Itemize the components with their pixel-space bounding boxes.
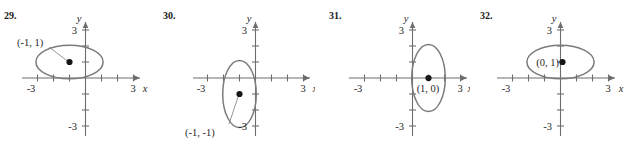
exercise-panel-30: 30.	[155, 0, 315, 142]
x-pos-tick-label-31: 3	[457, 83, 462, 94]
x-axis-31	[349, 75, 467, 81]
y-axis-31	[410, 22, 416, 136]
y-neg-tick-label-32: -3	[543, 121, 552, 132]
y-neg-tick-label-29: -3	[68, 121, 77, 132]
y-neg-tick-label-30: -3	[238, 121, 247, 132]
figure-strip: 29.	[0, 0, 629, 142]
leader-line-29	[49, 47, 68, 62]
x-neg-tick-label-29: -3	[27, 83, 36, 94]
focus-point-31	[425, 75, 431, 81]
point-label-32: (0, 1)	[536, 57, 559, 69]
x-pos-tick-label-29: 3	[130, 83, 135, 94]
y-axis-30	[253, 22, 259, 136]
focus-point-29	[66, 59, 72, 65]
x-axis-30	[193, 75, 310, 81]
y-neg-tick-label-31: -3	[395, 121, 404, 132]
x-pos-tick-label-30: 3	[300, 83, 305, 94]
y-pos-tick-label-30: 3	[242, 25, 247, 36]
y-pos-tick-label-29: 3	[72, 25, 77, 36]
leader-line-30	[229, 96, 239, 125]
y-axis-label-31: y	[403, 13, 409, 24]
x-neg-tick-label-31: -3	[354, 83, 363, 94]
point-label-30: (-1, -1)	[185, 127, 215, 139]
coordinate-plot-30: -3 3 3 -3 x y (-1, -1)	[155, 0, 315, 142]
exercise-panel-32: 32.	[470, 0, 629, 142]
coordinate-plot-32: -3 3 3 -3 x y (0, 1)	[470, 0, 629, 142]
point-label-29: (-1, 1)	[17, 37, 44, 49]
point-label-31: (1, 0)	[417, 83, 440, 95]
x-axis-label-32: x	[618, 83, 624, 94]
coordinate-plot-31: -3 3 3 -3 x y (1, 0)	[315, 0, 470, 142]
coordinate-plot-29: -3 3 3 -3 x y (-1, 1)	[0, 0, 155, 142]
exercise-panel-29: 29.	[0, 0, 155, 142]
y-axis-29	[83, 22, 89, 136]
focus-point-32	[559, 59, 565, 65]
x-axis-label-29: x	[142, 83, 148, 94]
x-neg-tick-label-32: -3	[502, 83, 511, 94]
x-neg-tick-label-30: -3	[197, 83, 206, 94]
y-pos-tick-label-32: 3	[547, 25, 552, 36]
focus-point-30	[236, 91, 242, 97]
exercise-panel-31: 31.	[315, 0, 470, 142]
x-pos-tick-label-32: 3	[605, 83, 610, 94]
y-axis-label-30: y	[246, 13, 252, 24]
y-axis-label-29: y	[76, 13, 82, 24]
y-pos-tick-label-31: 3	[399, 25, 404, 36]
y-axis-label-32: y	[551, 13, 557, 24]
